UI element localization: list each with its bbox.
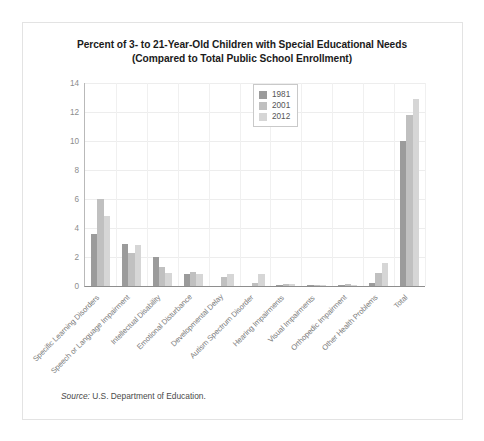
bar xyxy=(351,285,357,286)
source-text: U.S. Department of Education. xyxy=(92,391,206,401)
bar xyxy=(258,274,264,286)
bar-group xyxy=(400,83,419,286)
y-axis-tick-label: 2 xyxy=(74,253,79,262)
y-axis-tick-label: 4 xyxy=(74,224,79,233)
category-gridline xyxy=(394,83,395,286)
chart-title: Percent of 3- to 21-Year-Old Children wi… xyxy=(22,38,462,65)
legend-label: 1981 xyxy=(272,90,290,99)
bar xyxy=(320,285,326,286)
bar-group xyxy=(153,83,172,286)
legend-item: 2012 xyxy=(259,111,290,122)
bar xyxy=(135,245,141,286)
bar-group xyxy=(338,83,357,286)
bar xyxy=(165,273,171,286)
y-axis-tick-label: 0 xyxy=(74,282,79,291)
y-axis-tick-label: 12 xyxy=(70,108,79,117)
bar xyxy=(289,284,295,286)
legend-swatch xyxy=(259,102,267,110)
category-gridline xyxy=(209,83,210,286)
legend-label: 2001 xyxy=(272,101,290,110)
legend-swatch xyxy=(259,91,267,99)
chart-legend: 198120012012 xyxy=(253,84,298,127)
bar-group xyxy=(307,83,326,286)
bar-group xyxy=(122,83,141,286)
bar-group xyxy=(91,83,110,286)
legend-label: 2012 xyxy=(272,112,290,121)
chart-page: Percent of 3- to 21-Year-Old Children wi… xyxy=(0,0,484,441)
bar xyxy=(227,274,233,286)
y-axis-tick-label: 10 xyxy=(70,137,79,146)
source-note: Source: U.S. Department of Education. xyxy=(61,391,206,401)
category-gridline xyxy=(240,83,241,286)
legend-swatch xyxy=(259,113,267,121)
bar xyxy=(196,274,202,286)
chart-title-line-1: Percent of 3- to 21-Year-Old Children wi… xyxy=(22,38,462,52)
legend-item: 2001 xyxy=(259,100,290,111)
chart-title-line-2: (Compared to Total Public School Enrollm… xyxy=(22,52,462,66)
category-gridline xyxy=(332,83,333,286)
category-gridline xyxy=(425,83,426,286)
y-axis-tick-label: 8 xyxy=(74,166,79,175)
category-gridline xyxy=(147,83,148,286)
y-axis-tick-label: 6 xyxy=(74,195,79,204)
bar-group xyxy=(184,83,203,286)
bar xyxy=(104,216,110,286)
bar-group xyxy=(215,83,234,286)
bar xyxy=(413,99,419,286)
bar-group xyxy=(369,83,388,286)
category-gridline xyxy=(301,83,302,286)
category-gridline xyxy=(116,83,117,286)
category-gridline xyxy=(178,83,179,286)
y-axis-tick-label: 14 xyxy=(70,79,79,88)
bar xyxy=(382,263,388,286)
category-gridline xyxy=(363,83,364,286)
source-label: Source: xyxy=(61,391,90,401)
legend-item: 1981 xyxy=(259,89,290,100)
